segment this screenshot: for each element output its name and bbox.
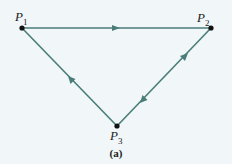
label-p3: P3 bbox=[110, 128, 122, 146]
label-p1: P1 bbox=[15, 9, 27, 27]
edge-p2-p3 bbox=[117, 28, 211, 126]
label-p2: P2 bbox=[197, 10, 209, 28]
arrow-right-icon bbox=[112, 25, 120, 31]
figure-caption: (a) bbox=[0, 147, 232, 159]
